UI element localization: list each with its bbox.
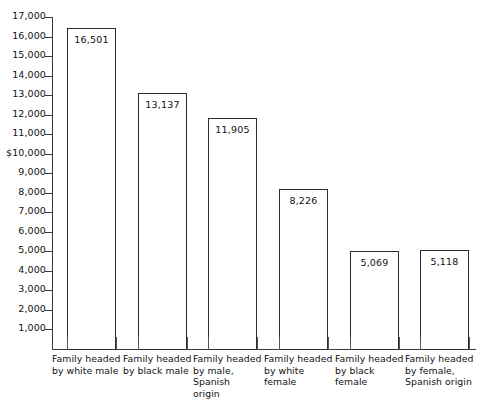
bar-value-label: 11,905 (209, 124, 256, 135)
x-axis-tick-mark (469, 337, 470, 350)
x-axis-tick-mark (328, 337, 329, 350)
category-label-line: Family headed (264, 353, 335, 365)
y-axis-tick-label: 17,000 (12, 10, 46, 21)
bar-value-label: 8,226 (280, 195, 327, 206)
x-axis-tick-mark (350, 337, 351, 350)
y-axis-tick-label: 16,000 (12, 30, 46, 41)
x-axis-tick-mark (257, 337, 258, 350)
y-axis-tick-label: 4,000 (18, 264, 46, 275)
category-label-line: Family headed (123, 353, 194, 365)
category-label: Family headedby white female (264, 353, 335, 388)
bar: 11,905 (208, 118, 257, 350)
bar-value-label: 16,501 (68, 34, 115, 45)
x-axis-category-labels: Family headedby white maleFamily headedb… (52, 353, 476, 401)
bar: 16,501 (67, 28, 116, 350)
x-axis-tick-mark (279, 337, 280, 350)
x-axis-tick-mark (116, 337, 117, 350)
y-axis-tick-label: 2,000 (18, 303, 46, 314)
category-label: Family headedby black female (335, 353, 406, 388)
category-label-line: by black female (335, 365, 406, 388)
category-label-line: by male, Spanish (193, 365, 264, 388)
bar: 5,069 (350, 251, 399, 350)
x-axis-tick-mark (138, 337, 139, 350)
category-label-line: Family headed (52, 353, 123, 365)
category-label: Family headedby white male (52, 353, 123, 376)
category-label-line: by white female (264, 365, 335, 388)
plot-area: 16,50113,13711,9058,2265,0695,118 (52, 17, 476, 350)
y-axis-tick-label: 15,000 (12, 49, 46, 60)
x-axis-tick-mark (208, 337, 209, 350)
y-axis-tick-label: 8,000 (18, 186, 46, 197)
category-label: Family headedby male, Spanishorigin (193, 353, 264, 399)
category-label: Family headedby female,Spanish origin (405, 353, 476, 388)
y-axis-tick-label: 6,000 (18, 225, 46, 236)
category-label-line: by white male (52, 365, 123, 377)
y-axis-tick-label: $10,000 (6, 147, 46, 158)
bar-value-label: 13,137 (139, 99, 186, 110)
category-label-line: by female, (405, 365, 476, 377)
bar: 8,226 (279, 189, 328, 350)
bar: 5,118 (420, 250, 469, 350)
y-axis-tick-label: 11,000 (12, 127, 46, 138)
y-axis-tick-label: 14,000 (12, 69, 46, 80)
bar-value-label: 5,118 (421, 256, 468, 267)
y-axis-tick-label: 3,000 (18, 283, 46, 294)
x-axis-tick-mark (420, 337, 421, 350)
category-label-line: by black male (123, 365, 194, 377)
category-label-line: Spanish origin (405, 376, 476, 388)
x-axis-tick-mark (187, 337, 188, 350)
y-axis-tick-label: 13,000 (12, 88, 46, 99)
bar-chart: 1,0002,0003,0004,0005,0006,0007,0008,000… (0, 0, 478, 403)
category-label-line: Family headed (405, 353, 476, 365)
bar-value-label: 5,069 (351, 257, 398, 268)
category-label-line: origin (193, 388, 264, 400)
category-label-line: Family headed (335, 353, 406, 365)
x-axis-tick-mark (399, 337, 400, 350)
bar: 13,137 (138, 93, 187, 350)
y-axis-tick-label: 5,000 (18, 244, 46, 255)
x-axis-tick-mark (67, 337, 68, 350)
category-label: Family headedby black male (123, 353, 194, 376)
category-label-line: Family headed (193, 353, 264, 365)
y-axis-tick-label: 1,000 (18, 322, 46, 333)
y-axis-tick-label: 9,000 (18, 166, 46, 177)
y-axis-tick-label: 12,000 (12, 108, 46, 119)
y-axis-tick-label: 7,000 (18, 205, 46, 216)
